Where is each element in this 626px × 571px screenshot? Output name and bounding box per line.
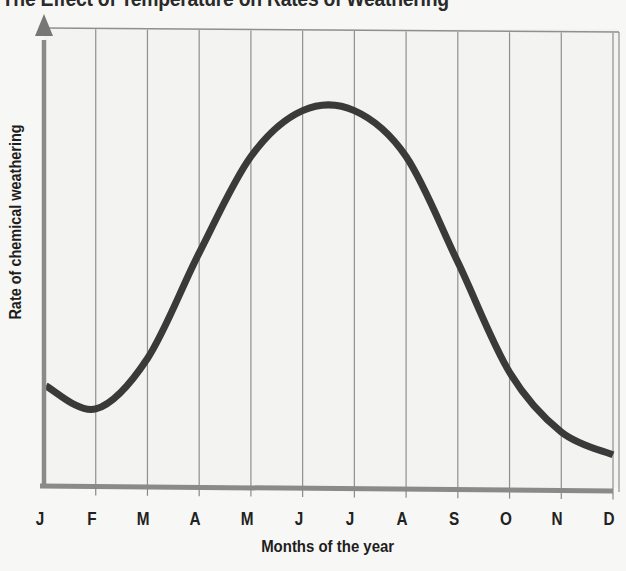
y-axis-label: Rate of chemical weathering <box>6 124 30 320</box>
x-axis-label: Months of the year <box>39 537 590 557</box>
tick-label-sep: S <box>441 509 467 530</box>
tick-label-nov: N <box>545 509 571 530</box>
tick-label-jun: J <box>286 509 312 530</box>
tick-label-dec: D <box>596 509 622 530</box>
tick-label-aug: A <box>389 509 415 530</box>
tick-label-may: M <box>234 509 260 530</box>
tick-label-oct: O <box>493 509 519 530</box>
y-axis-arrow-icon <box>35 14 53 36</box>
plot-background <box>44 29 619 488</box>
tick-label-apr: A <box>182 509 208 530</box>
tick-label-feb: F <box>79 509 105 530</box>
tick-label-jul: J <box>338 509 364 530</box>
plot-area <box>0 0 626 571</box>
tick-label-jan: J <box>27 509 53 530</box>
tick-label-mar: M <box>131 509 157 530</box>
